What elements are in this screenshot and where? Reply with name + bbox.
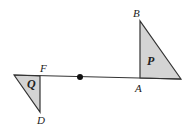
- label-p: P: [147, 54, 155, 68]
- vertex-label-b: B: [133, 7, 140, 19]
- vertex-label-f: F: [39, 62, 47, 74]
- triangle-p: [140, 21, 181, 79]
- label-q: Q: [27, 77, 36, 91]
- vertex-label-a: A: [134, 82, 142, 94]
- diagram-canvas: P Q B A F D: [0, 0, 186, 133]
- vertex-label-d: D: [36, 114, 45, 126]
- center-point: [77, 74, 83, 80]
